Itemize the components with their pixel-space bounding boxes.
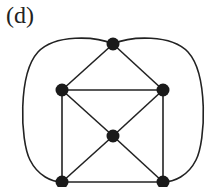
edge-left-center: [62, 90, 113, 136]
edge-curve-right: [113, 38, 203, 182]
edge-center-bottomleft: [62, 136, 113, 182]
node-right: [157, 84, 170, 97]
edge-right-center: [113, 90, 163, 136]
edge-top-left: [62, 44, 113, 90]
graph-diagram: [0, 0, 205, 187]
edge-top-right: [113, 44, 163, 90]
edges: [23, 38, 204, 182]
node-left: [56, 84, 69, 97]
edge-center-bottomright: [113, 136, 163, 182]
edge-curve-left: [23, 38, 113, 182]
node-center: [107, 130, 120, 143]
nodes: [56, 38, 170, 188]
node-top: [107, 38, 120, 51]
